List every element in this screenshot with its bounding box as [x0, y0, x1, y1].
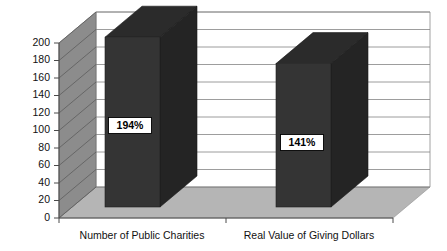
- bar-chart-3d: 200 180 160 140 120 100 80 60 40 20 0 19…: [0, 0, 447, 251]
- y-tick-label-100: 100: [32, 123, 50, 135]
- bar-2-value-label: 141%: [289, 136, 317, 148]
- y-tick-label-120: 120: [32, 106, 50, 118]
- y-tick-label-40: 40: [38, 176, 50, 188]
- y-tick-label-200: 200: [32, 36, 50, 48]
- y-tick-label-60: 60: [38, 158, 50, 170]
- y-tick-label-160: 160: [32, 71, 50, 83]
- y-tick-label-0: 0: [44, 211, 50, 223]
- y-tick-label-20: 20: [38, 193, 50, 205]
- bar-group-2[interactable]: 141%: [276, 33, 368, 207]
- y-tick-label-180: 180: [32, 53, 50, 65]
- bar-1-side-face: [160, 6, 197, 207]
- chart-container: 200 180 160 140 120 100 80 60 40 20 0 19…: [0, 0, 447, 251]
- bar-group-1[interactable]: 194%: [105, 6, 197, 207]
- x-axis-ticks: [59, 218, 393, 223]
- y-axis-ticks: [54, 43, 59, 218]
- bar-1-value-label: 194%: [117, 119, 145, 131]
- x-category-label-2: Real Value of Giving Dollars: [244, 229, 375, 241]
- x-category-label-1: Number of Public Charities: [80, 229, 205, 241]
- y-tick-label-80: 80: [38, 141, 50, 153]
- y-tick-label-140: 140: [32, 88, 50, 100]
- bar-2-side-face: [331, 33, 368, 207]
